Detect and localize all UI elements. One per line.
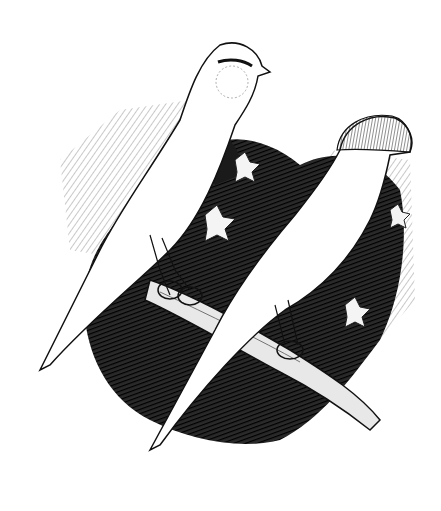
canary-engraving — [0, 0, 441, 511]
illustration-canvas — [0, 0, 441, 511]
